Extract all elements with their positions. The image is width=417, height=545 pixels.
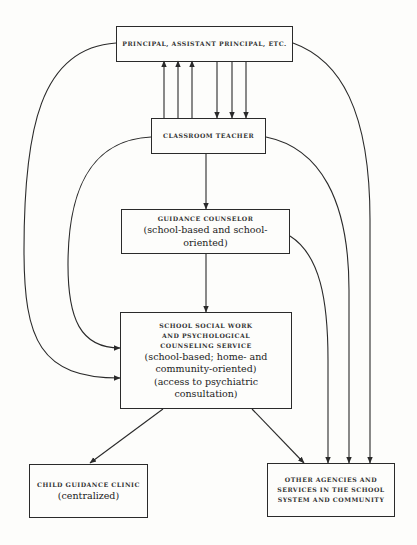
node-counselor-title: Guidance Counselor <box>158 214 254 224</box>
node-child-guidance-clinic: Child Guidance Clinic (centralized) <box>29 464 148 518</box>
node-socialwork-title-3: Counseling Service <box>160 341 251 351</box>
node-social-work-service: School Social Work and Psychological Cou… <box>120 312 292 409</box>
edge-counselor-to-agencies <box>290 236 328 463</box>
node-principal-title: Principal, Assistant Principal, Etc. <box>122 39 286 49</box>
edge-principal-to-socialwork <box>24 43 120 378</box>
node-agencies-title-2: Services in the School <box>277 485 384 495</box>
node-teacher-title: Classroom Teacher <box>163 131 254 141</box>
node-classroom-teacher: Classroom Teacher <box>151 118 266 154</box>
node-socialwork-title-1: School Social Work <box>159 321 252 331</box>
edge-socialwork-to-agencies <box>252 409 304 463</box>
node-socialwork-note-2: community-oriented) <box>156 363 257 376</box>
node-clinic-title: Child Guidance Clinic <box>37 480 140 490</box>
node-clinic-note: (centralized) <box>58 490 119 503</box>
node-socialwork-title-2: and Psychological <box>162 331 250 341</box>
node-socialwork-note-3: (access to psychiatric consultation) <box>121 376 291 401</box>
node-counselor-note: (school-based and school-oriented) <box>122 224 289 249</box>
edge-socialwork-to-clinic <box>90 409 163 463</box>
node-principal: Principal, Assistant Principal, Etc. <box>116 26 293 62</box>
node-guidance-counselor: Guidance Counselor (school-based and sch… <box>121 209 290 254</box>
node-socialwork-note-1: (school-based; home- and <box>145 351 268 364</box>
edge-teacher-to-agencies <box>266 137 349 463</box>
node-other-agencies: Other Agencies and Services in the Schoo… <box>267 463 395 517</box>
node-agencies-title-3: System and Community <box>278 495 385 505</box>
node-agencies-title-1: Other Agencies and <box>285 475 377 485</box>
edge-principal-to-agencies <box>293 43 370 463</box>
